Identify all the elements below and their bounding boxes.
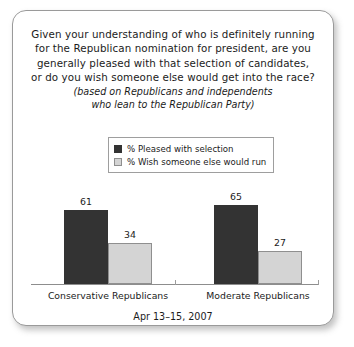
title-line: or do you wish someone else would get in…: [13, 70, 333, 84]
legend-item-wish-other: % Wish someone else would run: [114, 155, 266, 168]
group-separator-tick: [175, 280, 176, 285]
title-line: Given your understanding of who is defin…: [13, 27, 333, 41]
legend-swatch-light: [114, 158, 122, 166]
legend-label: % Wish someone else would run: [127, 157, 266, 167]
title-line: for the Republican nomination for presid…: [13, 41, 333, 55]
bar-wish-other: [258, 251, 302, 284]
category-label: Moderate Republicans: [192, 290, 324, 301]
category-label: Conservative Republicans: [42, 290, 174, 301]
chart-footer-date: Apr 13–15, 2007: [13, 311, 333, 322]
bar-pleased: [214, 205, 258, 284]
chart-legend: % Pleased with selection % Wish someone …: [108, 137, 274, 173]
chart-title: Given your understanding of who is defin…: [13, 27, 333, 111]
bar-value-label: 65: [214, 191, 258, 202]
bar-wish-other: [108, 243, 152, 284]
legend-label: % Pleased with selection: [127, 144, 234, 154]
poll-chart-card: Given your understanding of who is defin…: [12, 10, 334, 326]
axis-end-tick: [318, 280, 319, 285]
bar-value-label: 61: [64, 196, 108, 207]
title-line: generally pleased with that selection of…: [13, 56, 333, 70]
bar-value-label: 34: [108, 229, 152, 240]
chart-subtitle-line: who lean to the Republican Party): [13, 98, 333, 111]
chart-subtitle-line: (based on Republicans and independents: [13, 85, 333, 98]
legend-swatch-dark: [114, 145, 122, 153]
bar-value-label: 27: [258, 237, 302, 248]
legend-item-pleased: % Pleased with selection: [114, 142, 266, 155]
bar-pleased: [64, 210, 108, 284]
